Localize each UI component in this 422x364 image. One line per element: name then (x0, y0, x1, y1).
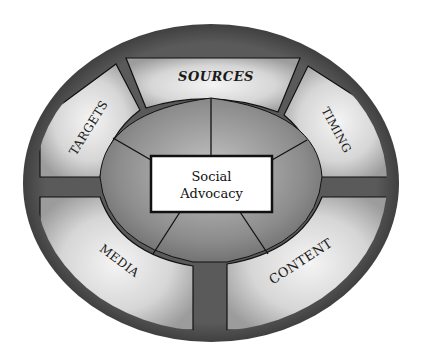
label-sources: SOURCES (178, 69, 254, 84)
center-label-line2: Advocacy (179, 186, 243, 201)
social-advocacy-diagram: Social Advocacy SOURCES TIMING CONTENT M… (0, 0, 422, 364)
center-box (151, 156, 272, 212)
center-label-line1: Social (191, 169, 231, 184)
